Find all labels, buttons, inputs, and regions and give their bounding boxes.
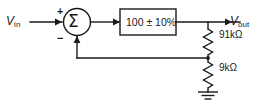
gain-block-label: 100 ± 10% (126, 17, 176, 28)
input-arrow-icon (55, 19, 62, 26)
input-signal-label: Vin (6, 15, 20, 27)
input-signal-subscript: in (14, 20, 20, 29)
summing-junction-plus-sign: + (57, 6, 63, 17)
gain-input-arrow-icon (113, 19, 120, 26)
resistor-r2-label: 9kΩ (219, 63, 237, 73)
divider-tap-junction-dot (206, 56, 210, 60)
resistor-r2-symbol (204, 62, 213, 88)
output-signal-label: Vout (230, 15, 249, 27)
circuit-diagram-canvas: Vin Vout 100 ± 10% 91kΩ 9kΩ + − Σ (0, 0, 258, 102)
output-signal-subscript: out (238, 20, 249, 29)
resistor-r1-symbol (204, 29, 213, 55)
summing-junction-sigma-glyph: Σ (68, 13, 79, 30)
summing-junction-minus-sign: − (57, 33, 63, 44)
feedback-arrow-icon (74, 36, 81, 43)
resistor-r1-label: 91kΩ (219, 30, 243, 40)
